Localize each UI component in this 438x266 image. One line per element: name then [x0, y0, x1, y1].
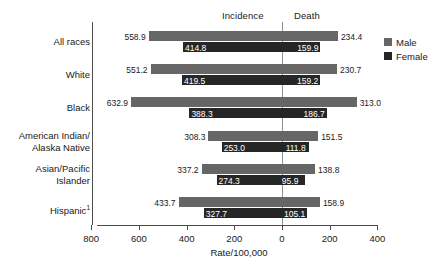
- bar-male: [151, 64, 337, 74]
- value-label-male-death: 151.5: [321, 132, 342, 142]
- legend-label-male: Male: [396, 37, 417, 48]
- value-label-male-incidence: 308.3: [172, 132, 205, 142]
- value-label-male-incidence: 558.9: [113, 32, 146, 42]
- x-tick: [234, 225, 235, 230]
- legend-swatch-female-icon: [384, 52, 392, 60]
- bar-male: [149, 31, 338, 41]
- zero-reference-line: [282, 22, 283, 225]
- category-label: White: [66, 69, 90, 81]
- x-tick-label: 0: [262, 233, 302, 244]
- bar-male: [208, 131, 318, 141]
- category-label: Black: [67, 102, 90, 114]
- legend-label-female: Female: [396, 51, 428, 62]
- panel-label-incidence: Incidence: [222, 10, 264, 21]
- value-label-male-death: 230.7: [340, 65, 361, 75]
- legend-item-female: Female: [384, 50, 428, 62]
- y-axis-line: [92, 22, 93, 225]
- diverging-bar-chart: Incidence Death 8006004002000200400 Rate…: [0, 0, 438, 266]
- value-label-female-incidence: 419.5: [184, 76, 205, 86]
- x-tick-label: 200: [214, 233, 254, 244]
- category-label: American Indian/ Alaska Native: [19, 130, 90, 153]
- x-tick-label: 600: [119, 233, 159, 244]
- x-tick-label: 400: [357, 233, 397, 244]
- value-label-female-incidence: 274.3: [219, 176, 240, 186]
- x-tick: [282, 225, 283, 230]
- value-label-female-death: 186.7: [304, 109, 325, 119]
- category-label: All races: [54, 36, 90, 48]
- value-label-female-incidence: 327.7: [206, 209, 227, 219]
- x-tick: [377, 225, 378, 230]
- x-tick: [187, 225, 188, 230]
- value-label-male-death: 234.4: [341, 32, 362, 42]
- category-label: Hispanic1: [50, 202, 90, 217]
- bar-male: [131, 97, 357, 107]
- panel-label-death: Death: [294, 10, 320, 21]
- bar-male: [179, 197, 320, 207]
- value-label-female-death: 159.2: [297, 76, 318, 86]
- value-label-female-incidence: 388.3: [191, 109, 212, 119]
- footnote-marker: 1: [86, 204, 90, 211]
- value-label-male-death: 313.0: [360, 98, 381, 108]
- value-label-male-incidence: 632.9: [95, 98, 128, 108]
- legend-swatch-male-icon: [384, 38, 392, 46]
- x-tick-label: 800: [71, 233, 111, 244]
- category-label: Asian/Pacific Islander: [36, 163, 90, 186]
- value-label-female-incidence: 253.0: [224, 143, 245, 153]
- value-label-male-incidence: 551.2: [115, 65, 148, 75]
- x-tick-label: 400: [167, 233, 207, 244]
- legend: Male Female: [384, 36, 428, 64]
- x-axis-title-text: Rate/100,000: [210, 247, 267, 258]
- x-tick: [139, 225, 140, 230]
- x-tick: [330, 225, 331, 230]
- value-label-male-incidence: 337.2: [166, 165, 199, 175]
- value-label-male-incidence: 433.7: [143, 198, 176, 208]
- value-label-male-death: 138.8: [318, 165, 339, 175]
- value-label-female-incidence: 414.8: [185, 43, 206, 53]
- x-tick: [91, 225, 92, 230]
- legend-item-male: Male: [384, 36, 428, 48]
- bar-male: [202, 164, 316, 174]
- value-label-female-death: 95.9: [282, 176, 299, 186]
- value-label-female-death: 105.1: [284, 209, 305, 219]
- value-label-female-death: 159.9: [297, 43, 318, 53]
- x-tick-label: 200: [310, 233, 350, 244]
- x-axis-title: Rate/100,000: [0, 247, 438, 258]
- value-label-male-death: 158.9: [323, 198, 344, 208]
- value-label-female-death: 111.8: [286, 143, 306, 153]
